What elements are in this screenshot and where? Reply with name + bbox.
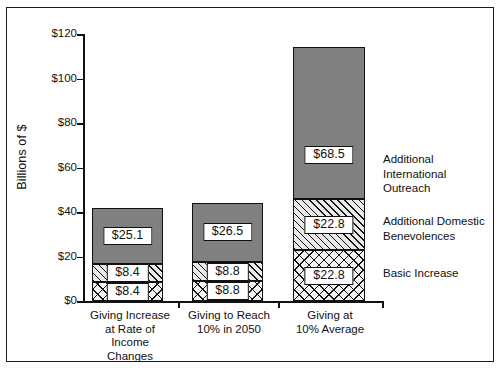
bar-3-segment-international[interactable]: $68.5 <box>293 47 365 199</box>
bar-2-value-basic: $8.8 <box>206 282 248 300</box>
y-tick-label-20: $20 <box>31 251 77 262</box>
bar-2-segment-international[interactable]: $26.5 <box>192 203 263 262</box>
bar-1-value-international: $25.1 <box>103 227 152 245</box>
bar-1-segment-domestic[interactable]: $8.4 <box>92 264 163 283</box>
y-tick-0 <box>77 301 84 303</box>
legend-basic-line-1: Basic Increase <box>383 266 495 281</box>
x-axis-line <box>83 301 383 303</box>
x-category-label-3: Giving at 10% Average <box>284 309 376 336</box>
x-category-label-2: Giving to Reach 10% in 2050 <box>183 309 275 336</box>
x-category-2-line-1: Giving to Reach <box>183 309 275 323</box>
x-category-3-line-1: Giving at <box>284 309 376 323</box>
bar-2-segment-basic[interactable]: $8.8 <box>192 281 263 301</box>
x-category-3-line-2: 10% Average <box>284 323 376 337</box>
y-tick-120 <box>77 34 84 36</box>
bar-3-value-basic: $22.8 <box>304 267 353 285</box>
y-tick-60 <box>77 168 84 170</box>
y-tick-20 <box>77 257 84 259</box>
y-tick-label-100: $100 <box>31 73 77 84</box>
bar-2-value-domestic: $8.8 <box>206 263 248 281</box>
legend-international-line-1: Additional International <box>383 152 495 181</box>
bar-1-segment-international[interactable]: $25.1 <box>92 208 163 264</box>
bar-3-value-international: $68.5 <box>304 146 353 164</box>
y-tick-100 <box>77 79 84 81</box>
y-tick-label-60: $60 <box>31 162 77 173</box>
bar-1-value-basic: $8.4 <box>106 283 148 301</box>
bar-2-segment-domestic[interactable]: $8.8 <box>192 262 263 282</box>
legend-domestic-line-2: Benevolences <box>383 229 495 244</box>
bar-2-value-international: $26.5 <box>203 223 252 241</box>
legend-item-domestic: Additional Domestic Benevolences <box>383 214 495 243</box>
bar-1-segment-basic[interactable]: $8.4 <box>92 282 163 301</box>
y-tick-40 <box>77 212 84 214</box>
y-tick-label-0: $0 <box>31 295 77 306</box>
bar-3-segment-basic[interactable]: $22.8 <box>293 250 365 301</box>
bar-group-2[interactable]: $26.5 $8.8 $8.8 <box>192 203 263 301</box>
legend-item-basic: Basic Increase <box>383 266 495 281</box>
x-tick-separator-2 <box>278 301 280 308</box>
y-axis-title: Billions of $ <box>15 107 29 207</box>
y-tick-label-120: $120 <box>31 28 77 39</box>
x-category-2-line-2: 10% in 2050 <box>183 323 275 337</box>
bar-3-value-domestic: $22.8 <box>304 216 353 234</box>
bar-group-3[interactable]: $68.5 $22.8 $22.8 <box>293 47 365 301</box>
legend-domestic-line-1: Additional Domestic <box>383 214 495 229</box>
x-category-1-line-2: at Rate of Income <box>85 323 175 350</box>
bar-3-segment-domestic[interactable]: $22.8 <box>293 199 365 250</box>
x-tick-end <box>382 301 384 308</box>
stacked-bar-chart: Billions of $ $120 $100 $80 $60 $40 $20 … <box>0 0 499 368</box>
x-category-label-1: Giving Increase at Rate of Income Change… <box>85 309 175 363</box>
x-category-1-line-1: Giving Increase <box>85 309 175 323</box>
y-tick-80 <box>77 123 84 125</box>
y-tick-label-40: $40 <box>31 206 77 217</box>
bar-1-value-domestic: $8.4 <box>106 264 148 282</box>
legend-international-line-2: Outreach <box>383 181 495 196</box>
y-tick-label-80: $80 <box>31 117 77 128</box>
bar-group-1[interactable]: $25.1 $8.4 $8.4 <box>92 208 163 301</box>
legend-item-international: Additional International Outreach <box>383 152 495 196</box>
x-category-1-line-3: Changes <box>85 350 175 364</box>
x-tick-separator-1 <box>178 301 180 308</box>
